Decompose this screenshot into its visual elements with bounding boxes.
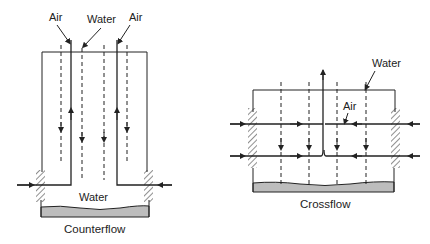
- label-air-crossflow: Air: [343, 100, 357, 112]
- crossflow-basin: [253, 182, 394, 192]
- counterflow-air-path-right: [117, 40, 172, 185]
- crossflow-exhaust: [321, 70, 323, 156]
- counterflow-diagram: Air Water Air Water Counterflow: [17, 11, 172, 235]
- counterflow-air-path-left: [17, 40, 71, 185]
- cooling-tower-diagrams: Air Water Air Water Counterflow: [0, 0, 430, 244]
- counterflow-tower-outline: [42, 52, 147, 172]
- label-air-right: Air: [129, 11, 143, 23]
- crossflow-louver-left: [248, 108, 257, 168]
- crossflow-tower-outline: [253, 90, 395, 112]
- crossflow-louver-right: [391, 108, 400, 168]
- caption-counterflow: Counterflow: [64, 223, 126, 235]
- counterflow-louver-right: [144, 170, 153, 202]
- crossflow-diagram: Water Air Crossflow: [230, 57, 420, 210]
- counterflow-basin: [41, 206, 149, 217]
- label-water-top: Water: [87, 13, 116, 25]
- label-water-basin: Water: [79, 191, 108, 203]
- caption-crossflow: Crossflow: [300, 198, 351, 210]
- label-water-crossflow: Water: [372, 57, 401, 69]
- label-air-left: Air: [49, 11, 63, 23]
- counterflow-louver-left: [36, 170, 45, 202]
